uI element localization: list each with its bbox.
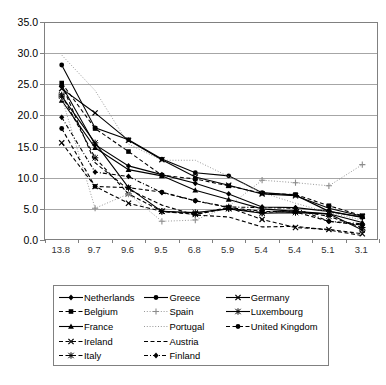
data-point-marker <box>93 184 98 189</box>
legend-symbol <box>58 349 84 362</box>
series-united-kingdom <box>59 126 364 227</box>
legend-symbol <box>143 291 169 304</box>
legend-label: Netherlands <box>84 292 135 303</box>
data-point-marker <box>159 218 165 224</box>
data-point-marker <box>360 223 365 228</box>
data-point-marker <box>326 211 332 217</box>
legend-symbol <box>58 320 84 333</box>
series-line <box>62 95 363 228</box>
legend-item-spain[interactable]: Spain <box>143 305 224 320</box>
legend-symbol <box>143 305 169 318</box>
plot-area <box>44 22 378 240</box>
y-axis-tick-label: 10.0 <box>0 173 38 183</box>
legend-label: United Kingdom <box>251 321 318 332</box>
legend-item-greece[interactable]: Greece <box>143 290 224 305</box>
data-point-marker <box>59 63 64 68</box>
data-point-marker <box>359 162 365 168</box>
legend-column-3: GermanyLuxembourgUnited Kingdom <box>225 290 328 365</box>
y-axis-tick-label: 30.0 <box>0 48 38 58</box>
legend-label: Greece <box>169 292 200 303</box>
data-point-marker <box>59 93 65 99</box>
data-point-marker <box>226 191 231 197</box>
data-point-marker <box>260 209 265 214</box>
data-point-marker <box>226 205 231 210</box>
x-axis-tick-label: 3.1 <box>341 244 381 255</box>
legend-symbol <box>225 291 251 304</box>
data-point-marker <box>68 294 73 300</box>
data-point-marker <box>326 183 332 189</box>
legend-column-2: GreeceSpainPortugalAustriaFinland <box>143 290 224 365</box>
data-point-marker <box>154 353 159 359</box>
legend-label: Finland <box>169 350 200 361</box>
data-point-marker <box>59 126 64 131</box>
legend-symbol <box>58 291 84 304</box>
data-point-marker <box>92 140 98 146</box>
data-point-marker <box>92 205 98 211</box>
data-point-marker <box>192 209 198 215</box>
y-axis-tick-label: 5.0 <box>0 204 38 214</box>
data-point-marker <box>235 309 241 315</box>
y-axis-tick-label: 0.0 <box>0 235 38 245</box>
data-point-marker <box>126 149 131 154</box>
data-point-marker <box>159 208 165 214</box>
data-point-marker <box>293 210 298 215</box>
legend-label: Germany <box>251 292 290 303</box>
data-point-marker <box>235 324 240 329</box>
legend-item-germany[interactable]: Germany <box>225 290 328 305</box>
y-axis-tick-label: 20.0 <box>0 110 38 120</box>
series-france <box>59 97 365 224</box>
data-point-marker <box>193 180 198 186</box>
legend-symbol <box>58 305 84 318</box>
series-line <box>62 65 363 217</box>
data-point-marker <box>126 185 131 190</box>
legend-symbol <box>225 305 251 318</box>
chart-container: 35.030.025.020.015.010.05.00.0 13.89.79.… <box>0 0 386 385</box>
legend-label: Belgium <box>84 306 118 317</box>
data-point-marker <box>292 180 298 186</box>
data-point-marker <box>154 295 159 300</box>
legend-item-netherlands[interactable]: Netherlands <box>58 290 143 305</box>
legend-item-austria[interactable]: Austria <box>143 334 224 349</box>
legend-label: Luxembourg <box>251 306 303 317</box>
data-point-marker <box>192 217 198 223</box>
data-point-marker <box>160 190 165 195</box>
chart-legend: NetherlandsBelgiumFranceIrelandItalyGree… <box>53 285 329 366</box>
y-axis-tick-label: 35.0 <box>0 17 38 27</box>
legend-symbol <box>143 335 169 348</box>
series-belgium <box>59 81 364 218</box>
legend-item-italy[interactable]: Italy <box>58 348 143 363</box>
series-line <box>62 117 363 224</box>
legend-item-united-kingdom[interactable]: United Kingdom <box>225 319 328 334</box>
data-point-marker <box>68 352 74 358</box>
series-line <box>62 86 363 218</box>
series-line <box>62 83 363 216</box>
legend-label: Italy <box>84 350 101 361</box>
data-point-marker <box>59 140 64 145</box>
data-point-marker <box>193 198 198 203</box>
data-point-marker <box>153 309 159 315</box>
data-point-marker <box>327 219 332 224</box>
y-axis-tick-label: 15.0 <box>0 142 38 152</box>
legend-item-ireland[interactable]: Ireland <box>58 334 143 349</box>
data-point-marker <box>359 227 365 233</box>
legend-symbol <box>143 320 169 333</box>
legend-column-1: NetherlandsBelgiumFranceIrelandItaly <box>58 290 143 365</box>
legend-item-france[interactable]: France <box>58 319 143 334</box>
legend-label: Ireland <box>84 336 113 347</box>
legend-label: Portugal <box>169 321 204 332</box>
legend-symbol <box>143 349 169 362</box>
data-point-marker <box>259 177 265 183</box>
legend-symbol <box>225 320 251 333</box>
series-luxembourg <box>59 93 366 233</box>
legend-label: Spain <box>169 306 193 317</box>
data-point-marker <box>93 169 98 175</box>
legend-item-portugal[interactable]: Portugal <box>143 319 224 334</box>
series-netherlands <box>59 83 365 221</box>
data-point-marker <box>126 167 132 172</box>
legend-item-finland[interactable]: Finland <box>143 348 224 363</box>
legend-item-luxembourg[interactable]: Luxembourg <box>225 305 328 320</box>
legend-item-belgium[interactable]: Belgium <box>58 305 143 320</box>
y-axis-tick-label: 25.0 <box>0 79 38 89</box>
data-point-marker <box>193 170 198 175</box>
data-point-marker <box>93 110 98 115</box>
